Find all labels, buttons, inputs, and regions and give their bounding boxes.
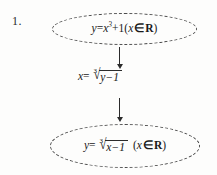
radical-index-middle: 3 xyxy=(94,68,98,75)
cube-root-icon: 3 √ x−1 xyxy=(97,139,131,154)
expression-top: y = x 3 +1 ( x ∈ R ) xyxy=(92,23,158,35)
element-of-icon: ∈ xyxy=(142,140,154,152)
expr-bottom-set-symbol: R xyxy=(154,140,162,152)
diagram-canvas: 1. y = x 3 +1 ( x ∈ R ) x = 3 √ y−1 xyxy=(0,0,217,175)
radical-index-bottom: 3 xyxy=(100,138,104,145)
expr-top-exponent: 3 xyxy=(108,21,112,29)
radicand-middle: y−1 xyxy=(99,70,122,84)
expression-bottom: y = 3 √ x−1 ( x ∈ R ) xyxy=(84,139,166,154)
expr-mid-equals: = xyxy=(83,71,90,83)
expression-middle: x = 3 √ y−1 xyxy=(78,69,125,84)
expr-bottom-equals: = xyxy=(89,140,96,152)
node-top-ellipse: y = x 3 +1 ( x ∈ R ) xyxy=(52,13,197,45)
expr-top-close-paren: ) xyxy=(154,23,158,35)
arrow-down-icon xyxy=(119,98,120,118)
node-bottom-ellipse: y = 3 √ x−1 ( x ∈ R ) xyxy=(50,124,200,168)
expr-top-plus-one: +1 xyxy=(112,23,124,35)
item-number: 1. xyxy=(12,14,22,29)
cube-root-icon: 3 √ y−1 xyxy=(91,69,125,84)
expr-bottom-close-paren: ) xyxy=(162,140,166,152)
radicand-bottom: x−1 xyxy=(105,140,128,154)
node-middle-expression: x = 3 √ y−1 xyxy=(78,69,125,84)
expr-top-set-symbol: R xyxy=(145,23,153,35)
arrow-down-icon xyxy=(119,47,120,65)
element-of-icon: ∈ xyxy=(133,23,145,35)
